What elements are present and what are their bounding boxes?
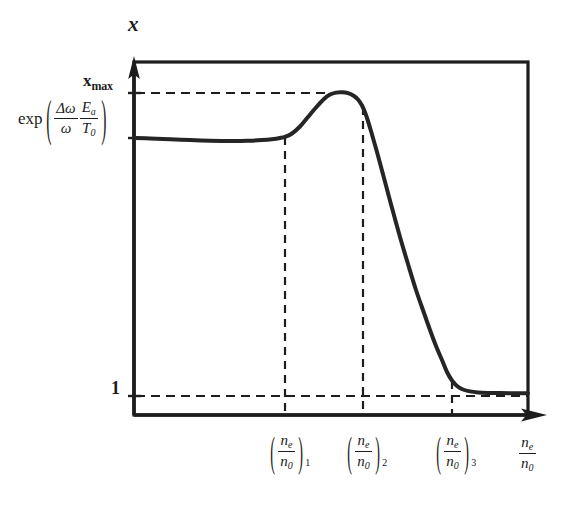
fraction-ne-n0: ne n0: [278, 432, 295, 472]
n0-base: n: [521, 455, 529, 471]
paren-open: (: [270, 427, 275, 476]
x-tick-label-2: ( ne n0 ) 2: [345, 432, 387, 472]
fraction-ne-n0: ne n0: [519, 434, 536, 474]
figure-container: x xmax 1 exp ( Δω ω Ea T0 ) ( ne n0 ) 1: [0, 0, 575, 509]
fraction-bar: [444, 451, 461, 452]
ne-subscript: e: [365, 439, 369, 450]
fraction-numerator: Δω: [54, 100, 77, 117]
tick-index: 3: [471, 457, 476, 468]
ne-base: n: [521, 434, 529, 450]
paren-close: ): [464, 427, 469, 476]
fraction-numerator: ne: [519, 434, 535, 452]
x-tick-label-3: ( ne n0 ) 3: [434, 432, 476, 472]
paren-open: (: [46, 94, 51, 144]
ne-base: n: [447, 432, 455, 448]
exp-function-name: exp: [18, 110, 43, 127]
ne-subscript: e: [529, 441, 533, 452]
fraction-numerator: Ea: [80, 99, 98, 117]
paren-close: ): [298, 427, 303, 476]
fraction-ea-t0: Ea T0: [80, 99, 98, 139]
y-tick-label-unity: 1: [111, 379, 120, 397]
fraction-ne-n0: ne n0: [444, 432, 461, 472]
paren-open: (: [347, 427, 352, 476]
t0-subscript: 0: [90, 127, 95, 138]
ea-subscript: a: [91, 106, 96, 117]
n0-subscript: 0: [288, 460, 293, 471]
fraction-denominator: n0: [278, 453, 295, 471]
plot-frame: [134, 62, 528, 415]
x-tick-label-1: ( ne n0 ) 1: [268, 432, 310, 472]
fraction-bar: [80, 118, 98, 119]
n0-base: n: [446, 453, 454, 469]
xmax-main: x: [83, 71, 92, 90]
tick-index: 1: [305, 457, 310, 468]
ne-base: n: [281, 432, 289, 448]
tick-index: 2: [382, 457, 387, 468]
n0-subscript: 0: [365, 460, 370, 471]
n0-subscript: 0: [529, 462, 534, 473]
ne-base: n: [358, 432, 366, 448]
fraction-numerator: ne: [279, 432, 295, 450]
fraction-bar: [519, 453, 536, 454]
paren-close: ): [375, 427, 380, 476]
y-tick-label-exp-expression: exp ( Δω ω Ea T0 ): [18, 99, 108, 139]
fraction-ne-n0: ne n0: [355, 432, 372, 472]
y-axis-name: x: [128, 14, 139, 35]
n0-base: n: [357, 453, 365, 469]
ne-subscript: e: [288, 439, 292, 450]
fraction-bar: [355, 451, 372, 452]
paren-close: ): [101, 94, 106, 144]
paren-open: (: [436, 427, 441, 476]
fraction-numerator: ne: [445, 432, 461, 450]
fraction-delta-omega: Δω ω: [54, 100, 77, 137]
fraction-bar: [278, 451, 295, 452]
fraction-denominator: n0: [355, 453, 372, 471]
ne-subscript: e: [454, 439, 458, 450]
x-axis-name: ne n0: [518, 434, 537, 474]
data-curve: [134, 92, 528, 393]
n0-subscript: 0: [454, 460, 459, 471]
fraction-denominator: n0: [519, 455, 536, 473]
fraction-denominator: T0: [80, 120, 97, 138]
n0-base: n: [280, 453, 288, 469]
fraction-bar: [54, 118, 77, 119]
y-tick-label-xmax: xmax: [83, 72, 113, 92]
ea-base: E: [82, 99, 91, 115]
fraction-denominator: ω: [59, 120, 74, 137]
fraction-numerator: ne: [356, 432, 372, 450]
fraction-denominator: n0: [444, 453, 461, 471]
